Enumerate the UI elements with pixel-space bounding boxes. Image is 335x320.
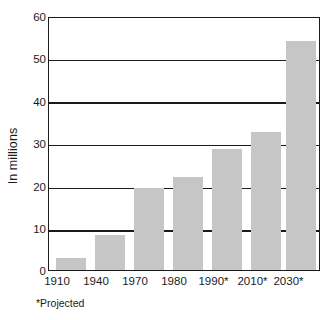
gridline-40: [49, 102, 319, 103]
plot-area: [48, 17, 320, 271]
y-tick-label-50: 50: [16, 54, 46, 66]
bar-chart: In millions 60 50 40 30 20 10 0 1910 194…: [0, 0, 335, 320]
x-tick-label-1910: 1910: [36, 276, 78, 288]
gridline-50: [49, 60, 319, 61]
bar-1990: [212, 149, 242, 270]
y-tick-label-10: 10: [16, 224, 46, 236]
bar-2010: [251, 132, 281, 270]
y-tick-label-60: 60: [16, 12, 46, 24]
x-tick-label-1980: 1980: [153, 276, 195, 288]
footnote: *Projected: [36, 298, 84, 309]
x-tick-label-1970: 1970: [114, 276, 156, 288]
y-axis-title-label: In millions: [6, 128, 20, 185]
bar-1910: [56, 258, 86, 270]
bar-2030: [286, 41, 316, 270]
bar-1940: [95, 235, 125, 270]
y-tick-label-20: 20: [16, 182, 46, 194]
bar-1980: [173, 177, 203, 270]
x-tick-label-2030: 2030*: [266, 276, 311, 288]
bar-1970: [134, 188, 164, 270]
y-tick-label-30: 30: [16, 139, 46, 151]
y-tick-label-40: 40: [16, 97, 46, 109]
x-tick-label-1940: 1940: [75, 276, 117, 288]
